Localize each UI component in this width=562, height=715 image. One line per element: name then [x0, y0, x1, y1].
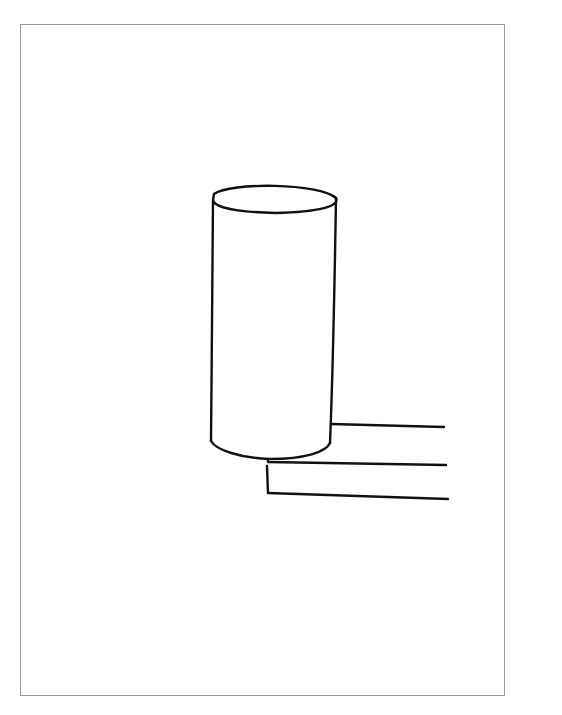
ledge-upper-edge — [331, 424, 444, 427]
ledge-middle-edge — [268, 460, 446, 465]
cylinder-right-side — [330, 198, 336, 443]
cylinder-left-side — [211, 200, 213, 441]
cylinder-bottom-arc — [211, 441, 330, 459]
ledge-lower-edge — [268, 493, 448, 499]
line-drawing — [0, 0, 562, 715]
ledge-front-vertical — [267, 466, 268, 493]
cylinder-top-ellipse — [213, 186, 336, 213]
